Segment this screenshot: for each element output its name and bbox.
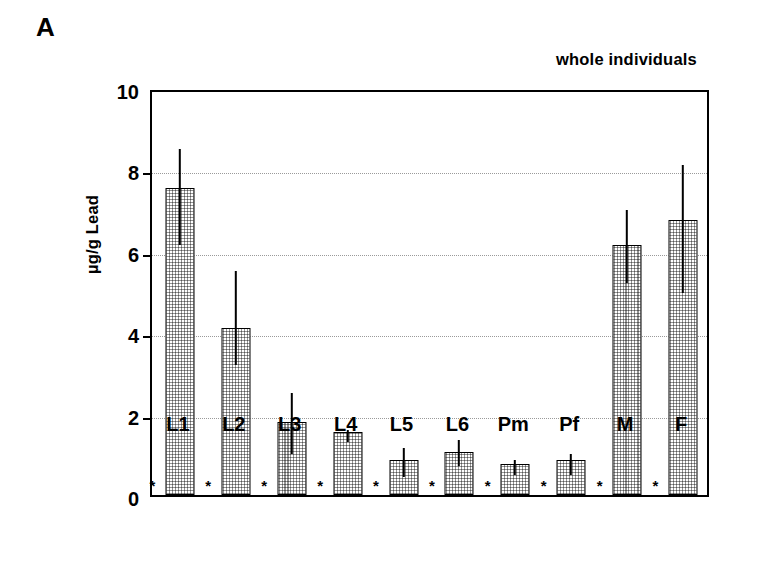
x-tick-label: Pf bbox=[541, 414, 597, 434]
error-bar bbox=[514, 460, 516, 474]
y-tick-label: 0 bbox=[128, 489, 139, 509]
y-tick-label: 8 bbox=[128, 163, 139, 183]
x-tick-label: L4 bbox=[318, 414, 374, 434]
significance-star: * bbox=[261, 478, 267, 493]
error-bar bbox=[235, 271, 237, 365]
error-bar bbox=[402, 448, 404, 476]
x-tick-label: L5 bbox=[374, 414, 430, 434]
significance-star: * bbox=[485, 478, 491, 493]
significance-star: * bbox=[597, 478, 603, 493]
panel-letter: A bbox=[36, 14, 55, 40]
y-tick-label: 10 bbox=[117, 82, 139, 102]
significance-star: * bbox=[373, 478, 379, 493]
y-tick-label: 6 bbox=[128, 245, 139, 265]
error-bar bbox=[626, 210, 628, 283]
y-tick-mark bbox=[143, 255, 152, 257]
significance-star: * bbox=[205, 478, 211, 493]
x-tick-label: L3 bbox=[262, 414, 318, 434]
significance-star: * bbox=[541, 478, 547, 493]
significance-star: * bbox=[149, 478, 155, 493]
y-tick-mark bbox=[143, 173, 152, 175]
x-tick-label: F bbox=[653, 414, 709, 434]
significance-star: * bbox=[653, 478, 659, 493]
x-tick-label: L1 bbox=[150, 414, 206, 434]
error-bar bbox=[682, 165, 684, 293]
error-bar bbox=[570, 454, 572, 474]
x-tick-label: L6 bbox=[430, 414, 486, 434]
plot-area: 0246810 ********** bbox=[150, 90, 709, 497]
y-tick-label: 2 bbox=[128, 408, 139, 428]
error-bar bbox=[179, 149, 181, 245]
figure-panel-a: A whole individuals µg/g Lead 0246810 **… bbox=[0, 0, 771, 563]
x-tick-label: Pm bbox=[485, 414, 541, 434]
x-tick-label: L2 bbox=[206, 414, 262, 434]
significance-star: * bbox=[317, 478, 323, 493]
y-axis-label: µg/g Lead bbox=[83, 155, 102, 315]
x-tick-label: M bbox=[597, 414, 653, 434]
y-tick-label: 4 bbox=[128, 326, 139, 346]
significance-star: * bbox=[429, 478, 435, 493]
chart-title: whole individuals bbox=[556, 50, 697, 69]
y-tick-mark bbox=[143, 336, 152, 338]
error-bar bbox=[458, 440, 460, 466]
